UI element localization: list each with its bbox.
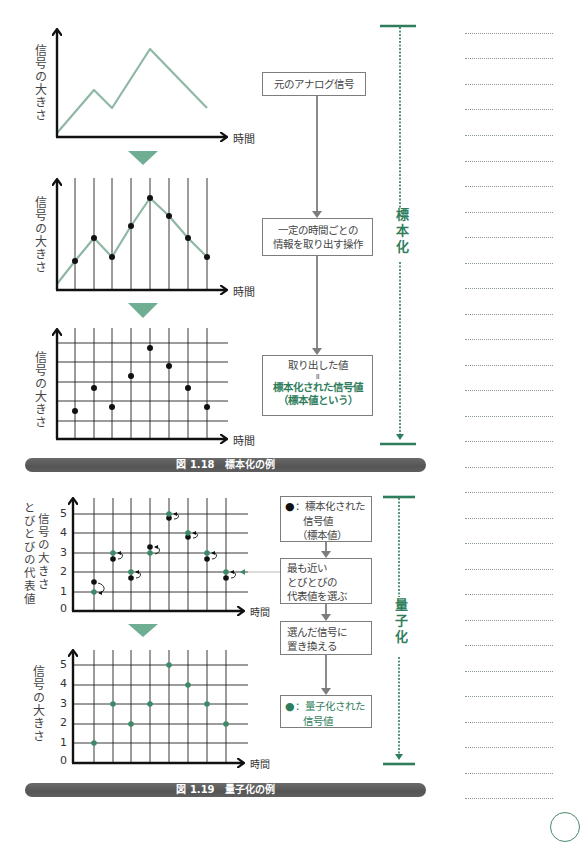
note-line: [465, 773, 553, 774]
note-line: [465, 237, 553, 238]
note-line: [465, 594, 553, 595]
note-line: [465, 186, 553, 187]
chart-quantized-values: [72, 650, 248, 763]
note-line: [465, 109, 553, 110]
y-axis-label: 信号の大きさ: [36, 513, 49, 591]
down-triangle-icon: [128, 303, 158, 318]
note-line: [465, 416, 553, 417]
flow-text: （標本値）: [285, 528, 371, 542]
note-line: [465, 569, 553, 570]
flow-text: 元のアナログ信号: [274, 78, 354, 90]
y-axis-label: 信号の大きさ: [30, 665, 43, 743]
equals-sign: ॥: [263, 372, 372, 381]
flow-box-quantized: ●：量子化された 信号値: [280, 695, 372, 728]
x-axis-label: 時間: [233, 432, 255, 448]
y-tick: 2: [57, 716, 67, 729]
flow-text: 一定の時間ごとの: [263, 223, 372, 237]
note-line: [465, 212, 553, 213]
note-line: [465, 135, 553, 136]
flow-text: 信号値: [285, 714, 371, 728]
y-tick: 0: [57, 754, 67, 767]
flow-box-sampled: ●：標本化された 信号値 （標本値）: [280, 496, 372, 542]
y-tick: 1: [57, 585, 67, 598]
note-line: [465, 33, 553, 34]
note-line: [465, 620, 553, 621]
flow-text: 信号値: [285, 514, 371, 528]
down-triangle-icon: [128, 624, 158, 637]
flow-box-sampled-value: 取り出した値 ॥ 標本化された信号値 （標本値という）: [262, 355, 373, 416]
flow-text: 最も近い: [287, 561, 371, 575]
flow-text: 代表値を選ぶ: [287, 589, 371, 603]
y-axis-label: 信号の大きさ: [32, 196, 45, 274]
x-axis-label: 時間: [233, 283, 255, 299]
bracket-label-quantization: 量子化: [391, 598, 410, 646]
black-dot-icon: ●: [285, 500, 295, 513]
note-line: [465, 696, 553, 697]
chart-quantization: [72, 498, 280, 611]
y-tick: 4: [57, 526, 67, 539]
flow-text: 情報を取り出す操作: [263, 237, 372, 251]
flow-box-choose-representative: 最も近い とびとびの 代表値を選ぶ: [280, 558, 372, 604]
y-tick: 2: [57, 565, 67, 578]
y-tick: 3: [57, 697, 67, 710]
note-line: [465, 263, 553, 264]
flow-text: とびとびの: [287, 575, 371, 589]
note-line: [465, 84, 553, 85]
note-line: [465, 518, 553, 519]
down-triangle-icon: [128, 151, 158, 165]
note-line: [465, 543, 553, 544]
note-line: [465, 390, 553, 391]
note-line: [465, 722, 553, 723]
figure-caption-1-18: 図 1.18 標本化の例: [25, 458, 426, 472]
flow-text: ：量子化された: [295, 700, 365, 712]
note-line: [465, 314, 553, 315]
chart-sampled-values: [56, 328, 228, 439]
y-tick: 0: [57, 602, 67, 615]
x-axis-label: 時間: [250, 604, 270, 619]
note-line: [465, 645, 553, 646]
note-line: [465, 161, 553, 162]
note-line: [465, 467, 553, 468]
chart-sampling: [56, 178, 226, 290]
flow-text-highlight: 標本化された信号値: [263, 381, 372, 394]
note-line: [465, 288, 553, 289]
note-line: [465, 339, 553, 340]
flow-text: 選んだ信号に: [287, 625, 371, 639]
flow-box-replace: 選んだ信号に 置き換える: [280, 621, 372, 655]
flow-text: 置き換える: [287, 639, 371, 653]
y-tick: 5: [57, 658, 67, 671]
note-line: [465, 492, 553, 493]
flow-text: ：標本化された: [295, 500, 365, 512]
chart-analog-signal: [56, 30, 226, 137]
flow-box-original-signal: 元のアナログ信号: [262, 72, 366, 96]
note-line: [465, 441, 553, 442]
y-tick: 3: [57, 546, 67, 559]
flow-text: 取り出した値: [263, 359, 372, 372]
x-axis-label: 時間: [233, 130, 255, 146]
note-line: [465, 798, 553, 799]
note-line: [465, 58, 553, 59]
y-tick: 1: [57, 736, 67, 749]
y-axis-label: 信号の大きさ: [32, 351, 45, 429]
x-axis-label: 時間: [250, 756, 270, 771]
note-line: [465, 365, 553, 366]
y-axis-label: 信号の大きさ: [32, 44, 45, 122]
flow-box-sampling-operation: 一定の時間ごとの 情報を取り出す操作: [262, 218, 373, 256]
note-line: [465, 671, 553, 672]
y-tick: 4: [57, 677, 67, 690]
note-line: [465, 747, 553, 748]
bracket-label-sampling: 標本化: [392, 208, 411, 256]
y-axis-label-representative: とびとびの代表値: [22, 502, 35, 606]
flow-text-highlight: （標本値という）: [263, 394, 372, 407]
green-dot-icon: ●: [285, 700, 295, 713]
figure-caption-1-19: 図 1.19 量子化の例: [25, 783, 426, 797]
y-tick: 5: [57, 507, 67, 520]
page-number-badge: [550, 812, 580, 842]
